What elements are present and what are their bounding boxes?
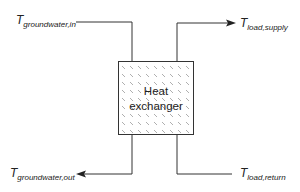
load-return-pipe: [177, 135, 232, 174]
load-supply-pipe: [177, 23, 228, 61]
groundwater-in-pipe: [76, 22, 132, 61]
label-groundwater-out: Tgroundwater,out: [10, 167, 75, 182]
groundwater-out-pipe: [84, 135, 132, 174]
label-load-supply: Tload,supply: [240, 17, 288, 32]
label-groundwater-in: Tgroundwater,in: [16, 14, 76, 29]
label-load-return: Tload,return: [240, 167, 286, 182]
heat-exchanger-label: Heat exchanger: [118, 84, 194, 114]
